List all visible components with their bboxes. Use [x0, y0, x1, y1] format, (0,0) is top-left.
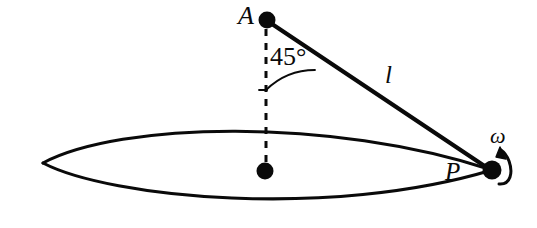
diagram-canvas [0, 0, 537, 228]
label-angle-45: 45° [270, 44, 306, 70]
physics-diagram-figure: A 45° l P ω [0, 0, 537, 228]
label-angular-velocity: ω [490, 125, 506, 147]
point-a-marker [259, 12, 276, 29]
circle-center-marker [257, 163, 274, 180]
label-point-a: A [238, 3, 254, 29]
point-p-marker [483, 161, 502, 180]
label-point-p: P [445, 159, 460, 184]
angle-arc-45 [266, 70, 315, 90]
label-rod-length: l [385, 62, 392, 87]
